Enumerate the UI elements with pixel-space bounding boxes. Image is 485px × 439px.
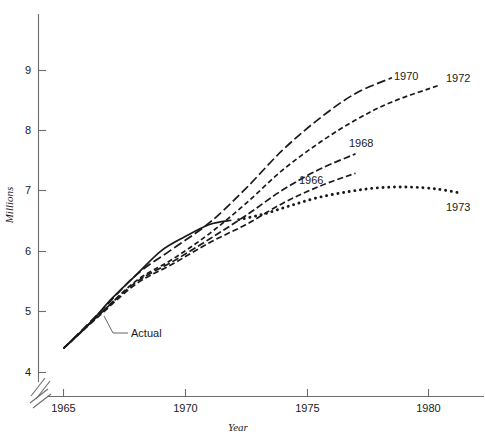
axis-break-marks [30, 378, 51, 408]
x-tick-label-1975: 1975 [295, 402, 319, 414]
y-tick-label-5: 5 [25, 305, 31, 317]
y-tick-marks [39, 71, 47, 373]
series-label-1972: 1972 [446, 72, 470, 84]
x-tick-label-1980: 1980 [416, 402, 440, 414]
series-label-actual: Actual [131, 327, 162, 339]
x-tick-label-1965: 1965 [51, 402, 75, 414]
y-tick-label-4: 4 [25, 366, 31, 378]
series-label-1973: 1973 [446, 201, 470, 213]
x-tick-marks [64, 389, 429, 397]
y-tick-label-6: 6 [25, 245, 31, 257]
y-tick-label-9: 9 [25, 64, 31, 76]
chart-plot-area: 9 8 7 6 5 4 1965 1970 1975 1980 Millions… [0, 0, 485, 439]
series-path-1973 [239, 187, 458, 220]
y-axis-title: Millions [3, 187, 15, 225]
series-label-1968: 1968 [349, 137, 373, 149]
y-tick-label-8: 8 [25, 124, 31, 136]
chart-figure: 9 8 7 6 5 4 1965 1970 1975 1980 Millions… [0, 0, 485, 439]
series-label-1966: 1966 [299, 174, 323, 186]
x-axis-title: Year [228, 421, 248, 433]
x-tick-label-1970: 1970 [173, 402, 197, 414]
series-path-1970 [64, 78, 393, 349]
data-curves [64, 78, 458, 349]
y-tick-label-7: 7 [25, 184, 31, 196]
series-label-1970: 1970 [394, 70, 418, 82]
actual-leader-line [104, 316, 128, 333]
